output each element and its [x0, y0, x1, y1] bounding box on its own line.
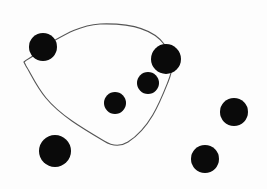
dot-7 [191, 145, 219, 173]
diagram-svg [0, 0, 267, 189]
diagram-canvas [0, 0, 267, 189]
dot-1 [29, 33, 57, 61]
dot-4 [104, 92, 126, 114]
dots-group [29, 33, 248, 173]
dot-6 [220, 98, 248, 126]
dot-5 [39, 135, 71, 167]
dot-2 [151, 44, 181, 74]
dot-3 [137, 72, 159, 94]
